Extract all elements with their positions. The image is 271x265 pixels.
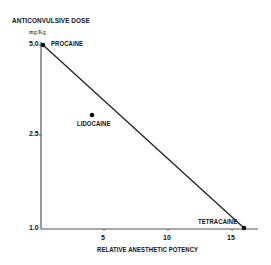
data-point-procaine [41,43,46,48]
y-axis-title: ANTICONVULSIVE DOSE [12,16,90,25]
trend-line [43,45,244,228]
label-lidocaine: LIDOCAINE [77,120,110,127]
x-tick-label-10: 10 [163,234,171,241]
y-tick-label-1: 1.0 [29,224,39,231]
y-axis-units: mg/Kg [29,28,46,36]
label-procaine: PROCAINE [51,40,83,47]
chart-plot-area [0,0,271,265]
y-tick-label-2-5: 2.5 [29,130,39,137]
x-tick-label-5: 5 [101,234,105,241]
x-axis-title: RELATIVE ANESTHETIC POTENCY [97,246,198,253]
data-point-tetracaine [242,226,247,231]
x-tick-label-15: 15 [227,234,235,241]
label-tetracaine: TETRACAINE [198,218,237,225]
data-point-lidocaine [90,113,95,118]
y-tick-label-5: 5.0 [29,40,39,47]
